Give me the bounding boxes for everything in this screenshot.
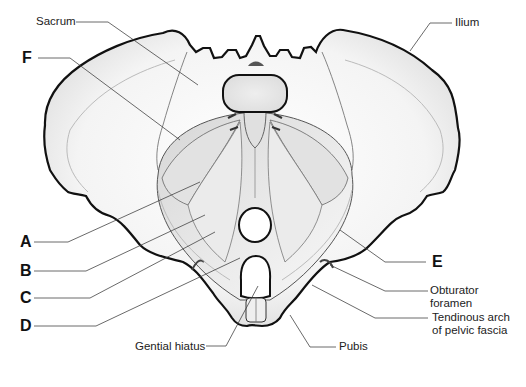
label-tendinous-arch-line2: of pelvic fascia	[432, 324, 507, 337]
genital-hiatus	[241, 256, 270, 298]
leader-pubis	[290, 315, 336, 347]
label-letter-e: E	[432, 254, 443, 270]
label-letter-c: C	[20, 290, 32, 306]
label-obturator-foramen-line2: foramen	[430, 297, 472, 310]
label-genital-hiatus: Gential hiatus	[135, 340, 205, 353]
label-letter-b: B	[20, 263, 32, 279]
label-pubis: Pubis	[339, 340, 368, 353]
rectal-hiatus	[239, 208, 271, 242]
pelvic-floor-diagram: Sacrum Ilium Obturator foramen Tendinous…	[0, 0, 526, 387]
leader-obturator	[330, 265, 428, 291]
label-ilium: Ilium	[455, 16, 479, 29]
leader-tendinous	[312, 285, 428, 318]
label-letter-f: F	[22, 50, 32, 66]
label-letter-d: D	[20, 318, 32, 334]
label-obturator-foramen-line1: Obturator	[430, 284, 479, 297]
leader-ilium	[410, 23, 452, 51]
label-tendinous-arch-line1: Tendinous arch	[432, 311, 510, 324]
vertebral-disc	[223, 75, 287, 112]
label-sacrum: Sacrum	[36, 15, 76, 28]
label-letter-a: A	[20, 234, 32, 250]
